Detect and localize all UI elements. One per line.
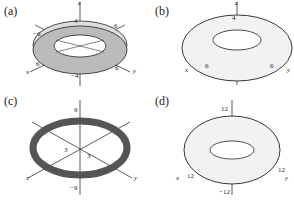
panel-a: (a) z 4 −6 6 6 6 −4 x y xyxy=(0,0,147,100)
tick-z-top: 9 xyxy=(74,106,78,114)
axis-x-label: x xyxy=(26,174,29,182)
tick-neg-y: 6 xyxy=(114,22,118,30)
torus-plot-a xyxy=(0,0,147,100)
tick-z-top: 4 xyxy=(232,14,236,22)
tick-z-top: 12 xyxy=(221,105,228,113)
tick-z-top: 4 xyxy=(74,17,78,25)
tick-y: 6 xyxy=(115,64,119,72)
axis-x-label: x xyxy=(176,174,179,182)
axis-z-label: z xyxy=(78,0,81,7)
panel-c: (c) 9 3 3 −9 x y xyxy=(0,100,147,203)
tick-y: 6 xyxy=(270,62,274,70)
tick-x: 6 xyxy=(205,62,209,70)
tick-z-bottom: −9 xyxy=(70,184,77,192)
tick-y: 12 xyxy=(278,166,285,174)
tick-z-bottom: −12 xyxy=(219,188,230,196)
axis-y-label: y xyxy=(287,66,290,74)
axis-x-label: x xyxy=(185,66,188,74)
axis-y-label: y xyxy=(133,67,136,75)
panel-d: (d) 12 12 12 −12 x y xyxy=(147,100,294,203)
tick-x: 3 xyxy=(64,146,68,154)
axis-x-label: x xyxy=(26,68,29,76)
tick-z-bottom: −4 xyxy=(71,72,78,80)
axis-z-label: z xyxy=(235,0,238,7)
tick-x: 6 xyxy=(36,60,40,68)
torus-plot-b xyxy=(147,0,294,100)
axis-y-label: y xyxy=(285,174,288,182)
tick-y: 3 xyxy=(87,152,91,160)
tick-neg-x: −6 xyxy=(33,30,40,38)
panel-b: (b) z 4 6 6 x y xyxy=(147,0,294,100)
tick-x: 12 xyxy=(187,172,194,180)
axis-y-label: y xyxy=(134,174,137,182)
